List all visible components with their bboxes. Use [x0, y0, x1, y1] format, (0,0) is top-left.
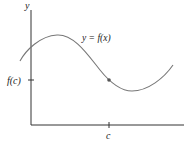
y-tick-label-fc: f(c)	[7, 75, 22, 87]
y-axis-label: y	[24, 0, 30, 11]
x-tick-label-c: c	[106, 130, 111, 141]
function-graph-figure: y y = f(x) f(c) c	[0, 0, 184, 148]
point-c-fc	[107, 78, 111, 82]
curve-label: y = f(x)	[81, 33, 111, 44]
function-curve	[20, 35, 173, 91]
